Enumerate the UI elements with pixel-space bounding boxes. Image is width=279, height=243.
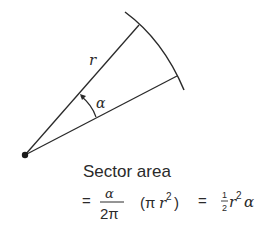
paren-open-pi: (π (140, 194, 155, 211)
angle-label: α (96, 95, 106, 111)
upper-radius-line (25, 25, 139, 155)
fraction2-denominator: 2 (222, 203, 227, 213)
sector-arc (125, 12, 184, 90)
sector-diagram: r α Sector area = α 2π (π r 2 ) = 1 2 r … (0, 0, 279, 243)
paren-close: ) (174, 194, 179, 211)
tail-superscript: 2 (236, 190, 242, 201)
radius-label: r (89, 51, 97, 69)
fraction2-numerator: 1 (222, 190, 227, 200)
center-point (22, 152, 28, 158)
sector-area-caption: Sector area (83, 162, 171, 181)
angle-arc (81, 96, 96, 117)
tail-alpha: α (244, 193, 254, 211)
fraction1-numerator: α (105, 186, 114, 201)
paren-superscript: 2 (166, 191, 172, 202)
fraction1-denominator: 2π (100, 205, 119, 222)
equals-sign-2: = (198, 192, 207, 209)
equals-sign-1: = (82, 192, 91, 209)
lower-radius-line (25, 76, 177, 155)
